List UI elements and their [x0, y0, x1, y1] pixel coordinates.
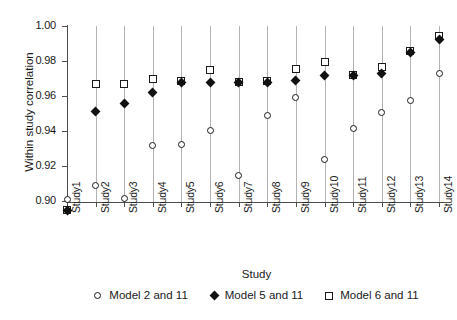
x-tick — [382, 202, 383, 207]
legend-open-square-icon — [325, 291, 334, 300]
x-tick-label: Study10 — [329, 176, 340, 213]
y-tick — [62, 166, 67, 167]
data-point-open-circle — [264, 112, 271, 119]
gridline — [153, 26, 154, 202]
gridline — [124, 26, 125, 202]
gridline — [181, 26, 182, 202]
data-point-open-square — [149, 75, 157, 83]
data-point-open-square — [92, 80, 100, 88]
data-point-filled-diamond — [91, 107, 101, 117]
x-tick-label: Study5 — [185, 182, 196, 214]
chart-figure: Within study correlation 0.900.920.940.9… — [0, 0, 457, 320]
x-tick — [439, 202, 440, 207]
x-tick — [410, 202, 411, 207]
data-point-open-square — [206, 66, 214, 74]
data-point-open-circle — [378, 109, 385, 116]
y-tick-label: 0.96 — [10, 90, 56, 101]
x-tick — [153, 202, 154, 207]
gridline — [296, 26, 297, 202]
x-tick-label: Study2 — [100, 182, 111, 214]
data-point-open-circle — [121, 195, 128, 202]
data-point-open-square — [292, 65, 300, 73]
legend-item: Model 5 and 11 — [210, 289, 303, 301]
y-axis-label: Within study correlation — [23, 27, 35, 197]
data-point-filled-diamond — [119, 98, 129, 108]
legend-filled-diamond-icon — [210, 291, 219, 300]
data-point-open-circle — [92, 182, 99, 189]
data-point-open-circle — [321, 156, 328, 163]
x-tick — [325, 202, 326, 207]
x-tick-label: Study14 — [443, 176, 454, 213]
y-tick — [62, 61, 67, 62]
x-tick-label: Study7 — [243, 182, 254, 214]
y-tick-label: 0.94 — [10, 125, 56, 136]
y-tick-label: 1.00 — [10, 20, 56, 31]
x-tick-label: Study12 — [386, 176, 397, 213]
legend-label: Model 2 and 11 — [109, 289, 187, 301]
data-point-open-square — [321, 58, 329, 66]
gridline — [353, 26, 354, 202]
x-tick — [296, 202, 297, 207]
data-point-open-circle — [350, 125, 357, 132]
data-point-filled-diamond — [148, 88, 158, 98]
y-tick-label: 0.92 — [10, 160, 56, 171]
data-point-open-circle — [407, 97, 414, 104]
data-point-open-circle — [292, 94, 299, 101]
gridline — [210, 26, 211, 202]
legend-item: Model 2 and 11 — [94, 289, 187, 301]
x-tick-label: Study1 — [71, 182, 82, 214]
gridline — [325, 26, 326, 202]
data-point-open-circle — [207, 127, 214, 134]
data-point-filled-diamond — [320, 71, 330, 81]
x-tick-label: Study8 — [271, 182, 282, 214]
y-axis-spine — [67, 25, 68, 203]
x-tick-label: Study4 — [157, 182, 168, 214]
x-tick — [124, 202, 125, 207]
y-tick-label: 0.98 — [10, 55, 56, 66]
chart-legend: Model 2 and 11Model 5 and 11Model 6 and … — [67, 289, 446, 301]
data-point-open-circle — [149, 142, 156, 149]
legend-open-circle-icon — [94, 291, 103, 300]
x-tick-label: Study11 — [357, 177, 368, 213]
x-tick — [267, 202, 268, 207]
x-tick-label: Study13 — [414, 176, 425, 213]
data-point-open-circle — [64, 196, 71, 203]
data-point-filled-diamond — [205, 77, 215, 87]
x-tick — [181, 202, 182, 207]
data-point-open-square — [120, 80, 128, 88]
data-point-open-circle — [178, 141, 185, 148]
legend-label: Model 6 and 11 — [340, 289, 418, 301]
y-tick-label: 0.90 — [10, 195, 56, 206]
legend-label: Model 5 and 11 — [225, 289, 303, 301]
data-point-open-circle — [436, 70, 443, 77]
x-tick-label: Study3 — [128, 182, 139, 214]
x-tick-label: Study6 — [214, 182, 225, 214]
legend-item: Model 6 and 11 — [325, 289, 418, 301]
x-tick — [210, 202, 211, 207]
data-point-filled-diamond — [291, 75, 301, 85]
gridline — [439, 26, 440, 202]
x-tick — [239, 202, 240, 207]
y-tick — [62, 96, 67, 97]
x-tick-label: Study9 — [300, 182, 311, 214]
x-axis-label: Study — [67, 268, 446, 280]
y-tick — [62, 26, 67, 27]
y-tick — [62, 131, 67, 132]
data-point-open-circle — [235, 172, 242, 179]
x-tick — [353, 202, 354, 207]
x-tick — [96, 202, 97, 207]
